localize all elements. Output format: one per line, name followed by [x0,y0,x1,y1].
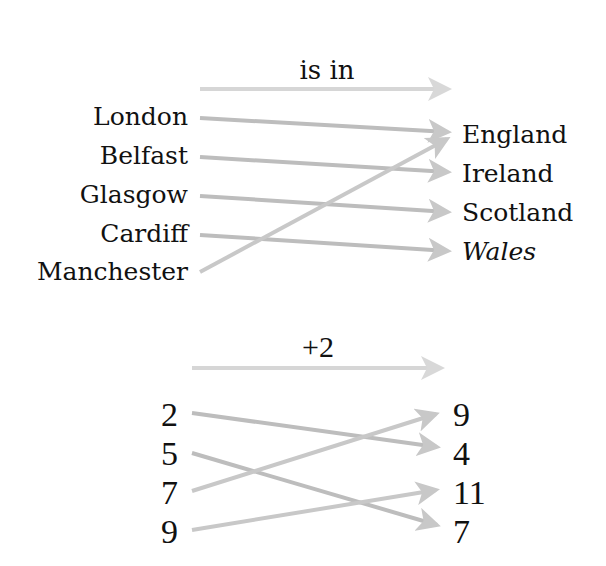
relation-label-plus-2: +2 [302,332,334,362]
country-england: England [462,122,567,147]
arrow-london-england [200,118,448,132]
input-number-9: 9 [161,515,178,549]
arrow-2-4 [192,413,437,447]
city-manchester: Manchester [37,259,188,284]
output-number-9: 9 [453,398,470,432]
arrow-cardiff-wales [200,235,448,251]
city-belfast: Belfast [100,143,188,168]
arrow-7-9 [192,414,436,491]
input-number-2: 2 [161,398,178,432]
mapping-arrows-cities [200,118,448,272]
arrow-5-7 [192,453,437,525]
output-number-11: 11 [453,476,486,510]
relation-label-is-in: is in [300,57,355,83]
arrow-9-11 [192,490,436,530]
city-glasgow: Glasgow [80,182,188,207]
city-cardiff: Cardiff [100,221,188,246]
country-ireland: Ireland [462,161,554,186]
input-number-5: 5 [161,437,178,471]
city-london: London [93,104,188,129]
output-number-4: 4 [453,437,470,471]
country-scotland: Scotland [462,200,573,225]
mapping-arrows-numbers [192,413,437,530]
input-number-7: 7 [161,476,178,510]
country-wales: Wales [462,239,536,264]
output-number-7: 7 [453,515,470,549]
